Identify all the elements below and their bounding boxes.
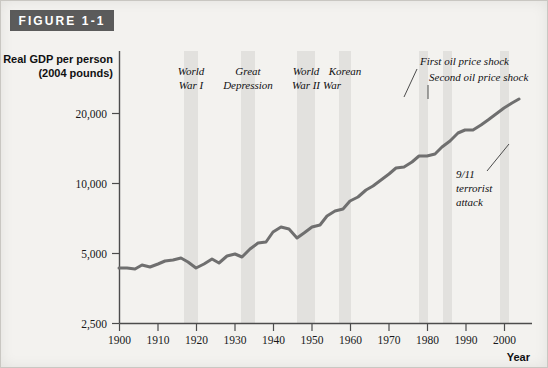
- ann-second-oil-label: Second oil price shock: [429, 71, 529, 83]
- ann-depression-line1: Great: [235, 65, 261, 77]
- band-world-war-ii: [297, 51, 315, 323]
- band-first-oil-shock: [419, 51, 428, 323]
- y-axis-title-line1: Real GDP per person: [3, 53, 113, 65]
- ann-korean-line2: War: [323, 79, 342, 91]
- ann-wwi-line1: World: [178, 65, 205, 77]
- x-tick-label-1930: 1930: [224, 334, 247, 346]
- y-tick-label-2500: 2,500: [81, 318, 107, 331]
- x-tick-label-1940: 1940: [262, 334, 285, 346]
- x-tick-label-1920: 1920: [185, 334, 208, 346]
- x-tick-label-1950: 1950: [301, 334, 324, 346]
- ann-911-line1: 9/11: [456, 168, 475, 180]
- x-tick-label-1980: 1980: [416, 334, 439, 346]
- x-tick-label-1900: 1900: [108, 334, 131, 346]
- ann-911-line3: attack: [456, 196, 484, 208]
- band-korean-war: [339, 51, 351, 323]
- x-axis-ticks: 1900 1910 1920 1930 1940 1950 1960 1970 …: [108, 324, 516, 347]
- band-world-war-i: [184, 51, 198, 323]
- band-great-depression: [241, 51, 255, 323]
- ann-wwii-line2: War II: [292, 79, 321, 91]
- y-axis-ticks: 20,000 10,000 5,000 2,500: [75, 108, 119, 331]
- x-tick-label-1960: 1960: [339, 334, 362, 346]
- figure-card: FIGURE 1-1 20,000 10,000 5,000 2,500: [0, 0, 548, 368]
- ann-first-oil-leader: [404, 69, 417, 97]
- ann-911-line2: terrorist: [456, 182, 493, 194]
- ann-wwii-line1: World: [293, 65, 320, 77]
- x-tick-label-1910: 1910: [147, 334, 170, 346]
- gdp-line-chart: 20,000 10,000 5,000 2,500 1900 1910 1920…: [1, 1, 548, 368]
- ann-wwi-line2: War I: [179, 79, 205, 91]
- x-axis-title: Year: [507, 351, 531, 363]
- ann-korean-line1: Korean: [328, 65, 362, 77]
- y-tick-label-5000: 5,000: [81, 248, 107, 261]
- y-tick-label-10000: 10,000: [75, 178, 107, 191]
- x-tick-label-1970: 1970: [378, 334, 401, 346]
- x-tick-label-1990: 1990: [455, 334, 478, 346]
- y-tick-label-20000: 20,000: [75, 108, 107, 121]
- band-second-oil-shock: [443, 51, 452, 323]
- ann-depression-line2: Depression: [222, 79, 273, 91]
- ann-first-oil-label: First oil price shock: [419, 55, 510, 67]
- band-nine-eleven: [500, 51, 509, 323]
- x-tick-label-2000: 2000: [493, 334, 516, 346]
- y-axis-title-line2: (2004 pounds): [38, 67, 113, 79]
